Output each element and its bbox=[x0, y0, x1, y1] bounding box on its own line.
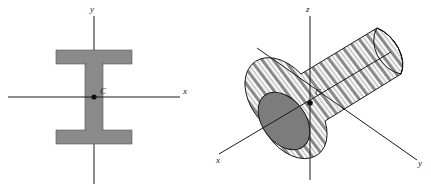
i-beam-seam-bottom bbox=[86, 129, 102, 131]
centroid-label: C bbox=[315, 87, 322, 97]
z-axis-label: z bbox=[305, 4, 310, 14]
cylinder-body bbox=[215, 0, 431, 194]
cylinder-figure: x y z C bbox=[215, 0, 431, 194]
i-beam-top-flange bbox=[56, 50, 132, 64]
y-axis-label: y bbox=[417, 158, 422, 168]
x-axis-label: x bbox=[182, 86, 187, 96]
i-beam-figure: x y C bbox=[0, 0, 215, 194]
figure-canvas: x y C bbox=[0, 0, 431, 194]
x-axis-label: x bbox=[215, 155, 220, 165]
centroid-dot bbox=[91, 94, 96, 99]
centroid-label: C bbox=[100, 86, 107, 96]
cylinder-svg: x y z C bbox=[215, 0, 431, 194]
y-axis-label: y bbox=[89, 4, 94, 14]
i-beam-svg: x y C bbox=[0, 0, 215, 194]
centroid-dot bbox=[307, 100, 313, 106]
i-beam-seam-top bbox=[86, 63, 102, 65]
i-beam-bottom-flange bbox=[56, 130, 132, 144]
